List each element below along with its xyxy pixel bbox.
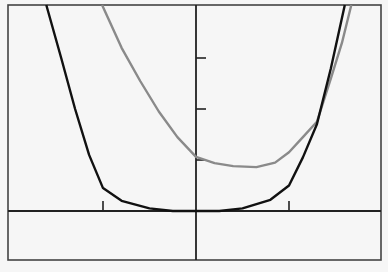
- function-plot: [0, 0, 388, 272]
- plot-frame: [8, 5, 381, 260]
